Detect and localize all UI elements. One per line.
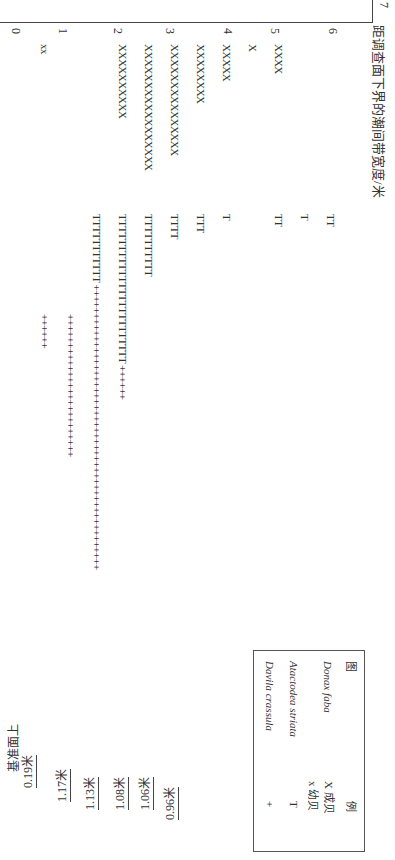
legend-symbol-t: T	[288, 801, 300, 808]
row-3c: XXXXXXXXXXXXXXXXXTTTTTTTTTT	[143, 44, 155, 276]
tick-2: 2	[110, 28, 125, 34]
row-2a: XXXXXXXXXXTTTTTTTTTTTTTTTTTTTTTTTT +++++…	[117, 44, 129, 400]
tick-0: 0	[8, 28, 23, 34]
axis-title: 距调查面下界的潮间带宽度/米	[370, 25, 389, 198]
tick-1: 1	[55, 28, 70, 34]
legend-title-left: 图	[344, 661, 360, 672]
legend-symbol-adult: X 成贝	[322, 781, 338, 814]
row-5b: X	[247, 44, 259, 214]
legend-symbol-plus: +	[264, 801, 276, 807]
row-6b: T	[299, 44, 311, 220]
datum-level-4: 1.06米	[135, 777, 154, 810]
legend-symbol-juvenile: x 幼贝	[306, 781, 322, 811]
legend: 图 例 Donax faba X 成贝 x 幼贝 Atactodea stria…	[253, 650, 365, 852]
legend-species-donax: Donax faba	[322, 661, 334, 713]
tick-5: 5	[267, 28, 282, 34]
row-3b: XXXXXXXXXXXXXXXTTTT	[169, 44, 181, 239]
row-1a: +++++++++++++++++++++++++	[65, 44, 77, 457]
datum-level-2: 1.13米	[80, 777, 99, 810]
zonation-figure: 距调查面下界的潮间带宽度/米 7 6 5 4 3 2 1 0 TT T XXXX…	[0, 0, 395, 860]
tick-4: 4	[220, 28, 235, 34]
datum-level-0: 0.19米	[18, 755, 37, 788]
row-1b: xx++++++	[39, 44, 51, 348]
row-2b: TTTTTTTTTTT ++++++++++++++++++++++++++++…	[91, 44, 103, 570]
tick-7: 7	[376, 2, 391, 8]
datum-level-1: 1.17米	[52, 769, 71, 802]
legend-species-davila: Davila crassula	[264, 661, 276, 731]
tick-3: 3	[162, 28, 177, 34]
row-5a: XXXXTT	[273, 44, 285, 226]
row-4: XXXXXT	[221, 44, 233, 220]
row-6a: TT	[325, 44, 337, 226]
datum-level-5: 0.96米	[160, 787, 179, 820]
tick-6: 6	[325, 28, 340, 34]
legend-species-atactodea: Atactodea striata	[288, 661, 300, 737]
legend-title-right: 例	[344, 801, 360, 812]
axis-top-rule	[372, 0, 373, 22]
row-3a: XXXXXXXXTTT	[195, 44, 207, 233]
datum-level-3: 1.08米	[110, 777, 129, 810]
